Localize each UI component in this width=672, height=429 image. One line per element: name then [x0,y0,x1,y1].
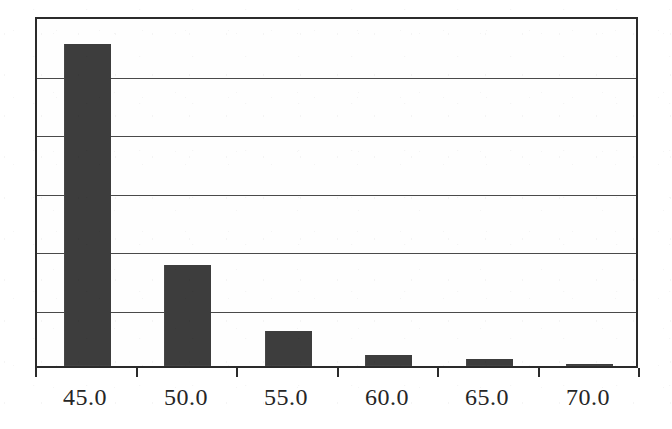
plot-area [35,17,638,368]
bar [566,364,613,366]
x-axis-tick-label: 50.0 [141,382,231,412]
bar [164,265,211,366]
x-axis-tick [136,368,138,377]
x-axis-tick-label: 55.0 [241,382,331,412]
x-axis-tick-labels: 45.050.055.060.065.070.0 [0,382,672,416]
bar [265,331,312,366]
histogram-figure: 45.050.055.060.065.070.0 [0,0,672,429]
x-axis-tick [236,368,238,377]
x-axis-tick-label: 45.0 [40,382,130,412]
x-axis-tick-label: 60.0 [342,382,432,412]
x-axis-tick [337,368,339,377]
x-axis-tick-label: 70.0 [543,382,633,412]
bar [365,355,412,366]
bar-series [37,19,636,366]
x-axis-tick [638,368,640,377]
x-axis-tick-label: 65.0 [442,382,532,412]
bar [64,44,111,366]
x-axis-tick [538,368,540,377]
x-axis-tick [437,368,439,377]
bar [466,359,513,366]
x-axis-tick [35,368,37,377]
